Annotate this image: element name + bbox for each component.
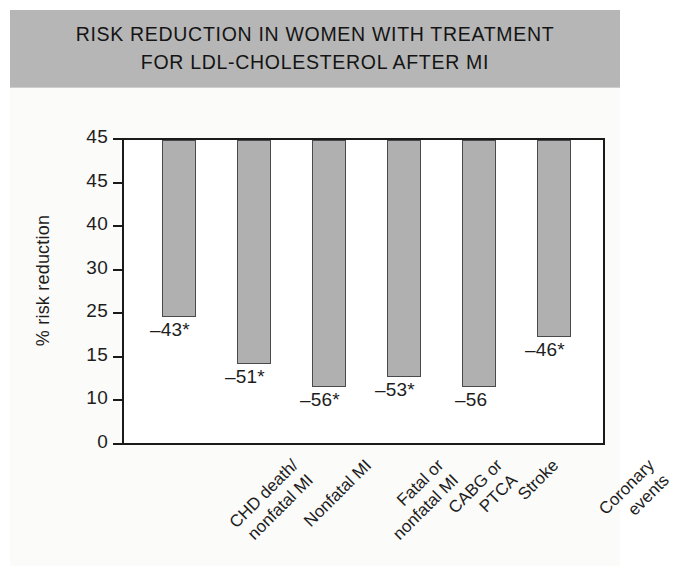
- y-axis-tick-label: 30: [86, 257, 108, 279]
- y-axis-tick-label: 45: [86, 170, 108, 192]
- y-axis-tick-mark: [113, 356, 122, 358]
- bar-value-label: –53*: [375, 379, 415, 401]
- y-axis-tick-label: 40: [86, 213, 108, 235]
- x-axis-category-label: CABG or PTCA: [444, 455, 522, 533]
- bar-value-label: –51*: [225, 366, 265, 388]
- y-axis-tick-label: 45: [86, 126, 108, 148]
- chart-area: % risk reduction 454540302515100 CHD dea…: [10, 88, 620, 566]
- x-axis-category-label: Nonfatal MI: [299, 455, 376, 532]
- y-axis-tick-mark: [113, 138, 122, 140]
- y-axis-tick-mark: [113, 399, 122, 401]
- x-axis-category-label: CHD death/ nonfatal MI: [225, 455, 318, 548]
- y-axis-tick-mark: [113, 312, 122, 314]
- x-axis-category-label: Coronary events: [594, 455, 673, 534]
- bar: [312, 140, 346, 387]
- page-title: RISK REDUCTION IN WOMEN WITH TREATMENT F…: [76, 21, 555, 76]
- y-axis-tick-mark: [113, 443, 122, 445]
- y-axis-tick-label: 10: [86, 387, 108, 409]
- bar-value-label: –46*: [525, 339, 565, 361]
- y-axis-tick-label: 25: [86, 300, 108, 322]
- bar-value-label: –43*: [150, 319, 190, 341]
- bar-value-label: –56*: [300, 389, 340, 411]
- bar: [537, 140, 571, 337]
- y-axis-tick-label: 15: [86, 344, 108, 366]
- y-axis-tick-mark: [113, 182, 122, 184]
- y-axis-tick-mark: [113, 269, 122, 271]
- y-axis-tick-label: 0: [97, 431, 108, 453]
- chart-title-banner: RISK REDUCTION IN WOMEN WITH TREATMENT F…: [10, 10, 620, 88]
- bar: [162, 140, 196, 317]
- bar: [387, 140, 421, 377]
- y-axis-tick-mark: [113, 225, 122, 227]
- x-axis-category-label: Stroke: [513, 455, 563, 505]
- plot-frame: [122, 138, 605, 445]
- figure: RISK REDUCTION IN WOMEN WITH TREATMENT F…: [10, 10, 620, 566]
- bar: [462, 140, 496, 387]
- bar: [237, 140, 271, 364]
- y-axis-title: % risk reduction: [33, 186, 54, 376]
- bar-value-label: –56: [455, 389, 487, 411]
